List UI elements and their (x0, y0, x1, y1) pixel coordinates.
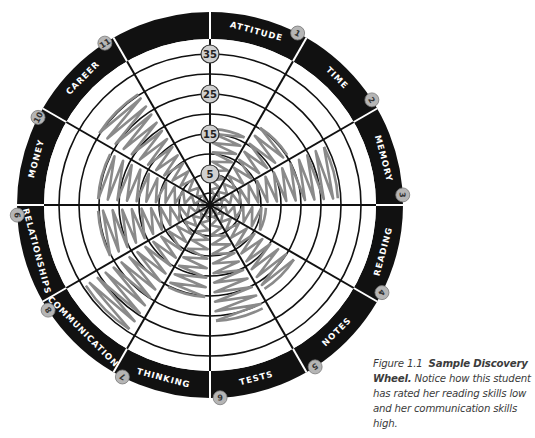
segment-number: 3 (398, 192, 407, 198)
scale-value: 25 (203, 89, 217, 100)
scale-value: 5 (207, 169, 214, 180)
figure-number: Figure 1.1 (373, 358, 423, 369)
scale-value: 35 (203, 49, 217, 60)
segment-number: 9 (13, 212, 22, 218)
segment-number: 6 (217, 393, 223, 402)
scale-value: 15 (203, 129, 217, 140)
figure-caption: Figure 1.1 Sample Discovery Wheel. Notic… (373, 356, 535, 431)
